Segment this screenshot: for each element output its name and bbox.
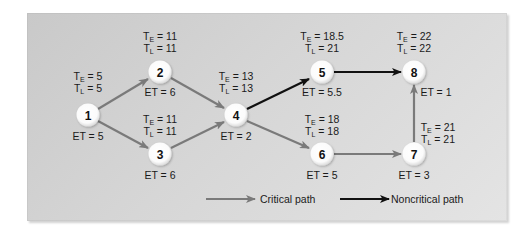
edge-4-5	[247, 79, 309, 109]
node-4-times: TE = 13 TL = 13	[219, 70, 254, 94]
node-3-te: TE = 11	[143, 113, 177, 125]
svg-text:6: 6	[319, 148, 326, 162]
edge-3-4	[171, 122, 224, 148]
node-6-te: TE = 18	[305, 113, 340, 125]
svg-text:3: 3	[157, 148, 164, 162]
node-4-tl: TL = 13	[219, 82, 254, 94]
node-8-te: TE = 22	[397, 30, 432, 42]
svg-text:1: 1	[85, 109, 92, 123]
svg-text:2: 2	[157, 66, 164, 80]
node-7: 7	[403, 143, 426, 166]
node-7-et: ET = 3	[398, 169, 429, 181]
node-1-et: ET = 5	[72, 130, 103, 142]
node-4: 4	[225, 104, 248, 127]
node-7-te: TE = 21	[421, 121, 456, 133]
node-4-et: ET = 2	[220, 130, 251, 142]
node-2-times: TE = 11 TL = 11	[143, 30, 177, 54]
node-7-times: TE = 21 TL = 21	[421, 121, 456, 145]
node-6-times: TE = 18 TL = 18	[305, 113, 340, 137]
node-6: 6	[311, 143, 334, 166]
node-1-te: TE = 5	[74, 70, 103, 82]
node-5-et: ET = 5.5	[302, 86, 342, 98]
node-2-tl: TL = 11	[143, 42, 177, 54]
node-1: 1	[77, 104, 100, 127]
node-7-tl: TL = 21	[421, 133, 456, 145]
node-5-tl: TL = 21	[300, 42, 344, 54]
node-6-tl: TL = 18	[305, 125, 340, 137]
node-1-tl: TL = 5	[74, 82, 103, 94]
node-4-te: TE = 13	[219, 70, 254, 82]
node-5-times: TE = 18.5 TL = 21	[300, 30, 344, 54]
svg-text:5: 5	[319, 66, 326, 80]
node-2-te: TE = 11	[143, 30, 177, 42]
svg-text:8: 8	[411, 66, 418, 80]
node-5-te: TE = 18.5	[300, 30, 344, 42]
node-1-times: TE = 5 TL = 5	[74, 70, 103, 94]
edge-1-2	[98, 79, 148, 109]
svg-text:7: 7	[411, 148, 418, 162]
node-8-et: ET = 1	[420, 86, 451, 98]
node-6-et: ET = 5	[306, 169, 337, 181]
node-3: 3	[149, 143, 172, 166]
edge-2-4	[171, 78, 224, 108]
node-5: 5	[311, 61, 334, 84]
node-8-times: TE = 22 TL = 22	[397, 30, 432, 54]
node-3-times: TE = 11 TL = 11	[143, 113, 177, 137]
node-8: 8	[403, 61, 426, 84]
node-2-et: ET = 6	[144, 86, 175, 98]
node-2: 2	[149, 61, 172, 84]
node-3-et: ET = 6	[144, 169, 175, 181]
legend-critical-label: Critical path	[260, 193, 315, 205]
edge-4-6	[247, 121, 309, 148]
legend-noncritical-label: Noncritical path	[391, 193, 463, 205]
edge-1-3	[98, 121, 148, 148]
node-8-tl: TL = 22	[397, 42, 432, 54]
node-3-tl: TL = 11	[143, 125, 177, 137]
svg-text:4: 4	[233, 109, 240, 123]
